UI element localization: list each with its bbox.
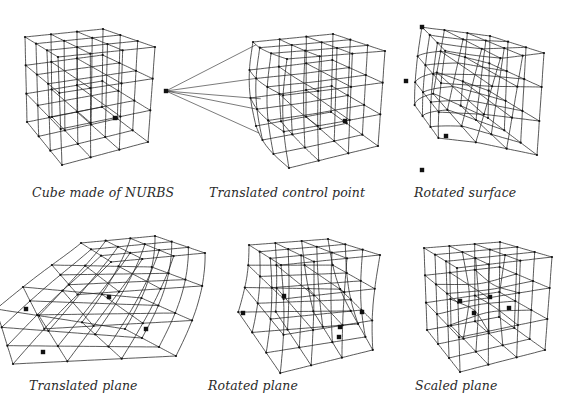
control-point bbox=[312, 329, 314, 331]
lattice-line bbox=[279, 39, 281, 121]
control-point bbox=[102, 54, 104, 56]
control-point bbox=[286, 58, 288, 60]
control-point bbox=[530, 309, 532, 311]
control-point bbox=[519, 260, 521, 262]
control-point bbox=[374, 288, 376, 290]
control-point bbox=[379, 254, 381, 256]
selected-control-point bbox=[337, 335, 341, 339]
control-point bbox=[60, 128, 62, 130]
control-point bbox=[76, 111, 78, 113]
control-point bbox=[38, 135, 40, 137]
control-point bbox=[487, 364, 489, 366]
control-point bbox=[106, 43, 108, 45]
selected-control-point bbox=[444, 134, 448, 138]
control-point bbox=[160, 288, 162, 290]
lattice-line bbox=[0, 309, 13, 364]
lattice-line bbox=[458, 288, 550, 303]
lattice-line bbox=[446, 261, 449, 358]
control-point bbox=[154, 46, 156, 48]
control-point bbox=[424, 274, 426, 276]
lattice-line bbox=[125, 329, 176, 356]
lattice-line bbox=[331, 253, 332, 343]
caption-cube-made-of-nurbs: Cube made of NURBS bbox=[32, 185, 174, 200]
lattice-line bbox=[475, 270, 519, 293]
control-point bbox=[279, 372, 281, 374]
control-point bbox=[121, 358, 123, 360]
control-point bbox=[257, 302, 259, 304]
control-point bbox=[187, 246, 189, 248]
lattice-line bbox=[280, 39, 320, 56]
control-point bbox=[255, 125, 257, 127]
control-point bbox=[503, 129, 505, 131]
control-point bbox=[491, 85, 493, 87]
control-point bbox=[487, 117, 489, 119]
control-point bbox=[384, 50, 386, 52]
lattice-line bbox=[103, 55, 153, 79]
control-point bbox=[204, 252, 206, 254]
control-point bbox=[272, 153, 274, 155]
lattice-line bbox=[36, 35, 120, 44]
control-point bbox=[331, 341, 333, 343]
lattice-line bbox=[332, 86, 381, 114]
lattice-line bbox=[462, 252, 469, 339]
control-point bbox=[347, 94, 349, 96]
lattice-line bbox=[500, 267, 550, 288]
control-point bbox=[259, 251, 261, 253]
control-point bbox=[58, 92, 60, 94]
lattice-line bbox=[250, 70, 284, 95]
control-point bbox=[271, 287, 273, 289]
control-point bbox=[102, 28, 104, 30]
control-point bbox=[346, 272, 348, 274]
control-point bbox=[382, 82, 384, 84]
control-point bbox=[270, 52, 272, 54]
control-point bbox=[120, 82, 122, 84]
lattice-line bbox=[266, 337, 365, 353]
figure-cube-made-of-nurbs bbox=[24, 28, 156, 166]
control-point bbox=[81, 321, 83, 323]
control-point bbox=[429, 34, 431, 36]
control-point bbox=[129, 252, 131, 254]
control-point bbox=[435, 283, 437, 285]
lattice-line bbox=[77, 85, 120, 116]
control-point bbox=[201, 285, 203, 287]
control-point bbox=[313, 261, 315, 263]
lattice-line bbox=[238, 312, 280, 373]
control-point bbox=[317, 90, 319, 92]
lattice-line bbox=[433, 74, 524, 79]
selected-control-point bbox=[458, 299, 462, 303]
lattice-line bbox=[424, 242, 500, 248]
control-point bbox=[35, 43, 37, 45]
control-point bbox=[536, 154, 538, 156]
lattice-line bbox=[306, 37, 352, 54]
control-point bbox=[312, 310, 314, 312]
lattice-line bbox=[427, 330, 460, 372]
control-point bbox=[456, 267, 458, 269]
control-point bbox=[47, 330, 49, 332]
control-point bbox=[503, 47, 505, 49]
control-point bbox=[521, 110, 523, 112]
control-point bbox=[332, 264, 334, 266]
control-point bbox=[151, 266, 153, 268]
control-point bbox=[360, 280, 362, 282]
control-point bbox=[422, 91, 424, 93]
lattice-line bbox=[439, 112, 540, 121]
control-point bbox=[363, 104, 365, 106]
selected-control-point bbox=[360, 310, 364, 314]
control-point bbox=[489, 248, 491, 250]
control-point bbox=[438, 111, 440, 113]
control-point bbox=[80, 242, 82, 244]
lattice-line bbox=[284, 114, 381, 131]
control-point bbox=[50, 33, 52, 35]
control-point bbox=[291, 133, 293, 135]
control-point bbox=[118, 291, 120, 293]
control-point bbox=[57, 56, 59, 58]
control-point bbox=[101, 80, 103, 82]
control-point bbox=[499, 57, 501, 59]
lattice-line bbox=[438, 328, 514, 344]
control-point bbox=[100, 255, 102, 257]
control-point bbox=[278, 66, 280, 68]
control-point bbox=[149, 109, 151, 111]
lattice-line bbox=[81, 236, 155, 243]
lattice-line bbox=[435, 255, 438, 344]
lattice-line bbox=[257, 95, 348, 109]
